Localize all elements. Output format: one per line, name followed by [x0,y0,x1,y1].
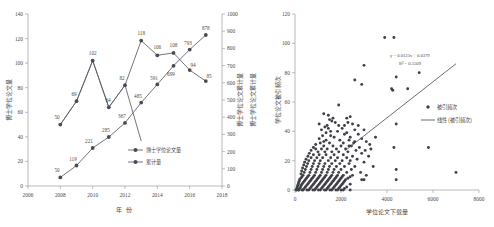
scatter-point [325,131,328,134]
scatter-point [307,159,310,162]
left-ytick-60: 60 [18,109,24,115]
scatter-point [346,121,349,124]
scatter-point [321,168,324,171]
scatter-point [341,127,344,130]
scatter-point [337,103,340,106]
left-line-chart-panel: 0 20 40 60 80 100 120 140 0 [0,0,247,227]
cumulative-label-2017: 878 [202,25,210,31]
left-xtick-2016: 2016 [184,192,195,198]
cumulative-label-2010: 221 [85,138,93,144]
scatter-point [406,87,409,90]
cumulative-label-2014: 591 [150,75,158,81]
left-ytick-20: 20 [18,158,24,164]
scatter-point [312,146,315,149]
scatter-point [300,172,303,175]
scatter-point [351,155,354,158]
scatter-point [359,171,362,174]
left-axes [28,14,222,186]
left-ytick-100: 100 [15,60,23,66]
annual-label-2015: 108 [170,42,178,48]
scatter-point [345,156,348,159]
left-ytick-0: 0 [20,183,23,189]
scatter-point [349,115,352,118]
right-ytick-80: 80 [285,70,291,76]
scatter-point [334,189,337,192]
cumulative-label-2011: 285 [102,127,110,133]
scatter-point [391,89,394,92]
cumulative-point-2015 [172,64,176,68]
scatter-point [395,178,398,181]
cumulative-point-2008 [58,176,62,180]
scatter-point [329,130,332,133]
scatter-point [327,159,330,162]
annual-series: 50 69 102 64 82 118 106 108 94 85 [54,30,212,141]
scatter-point [427,146,430,149]
scatter-point [327,168,330,171]
scatter-point [340,168,343,171]
scatter-point [345,117,348,120]
right-ytick-20: 20 [285,158,291,164]
scatter-point [330,150,333,153]
legend-marker-cumulative [134,160,138,164]
scatter-point [333,168,336,171]
right-xtick-6000: 6000 [428,196,439,202]
legend-marker-citations [426,105,429,108]
left-ytick-140: 140 [15,11,23,17]
scatter-point [326,147,329,150]
scatter-point [326,171,329,174]
scatter-point [360,152,363,155]
annual-label-2016: 94 [190,62,196,68]
scatter-point [365,140,368,143]
scatter-point [365,174,368,177]
annual-point-2014 [155,53,159,57]
scatter-point [392,36,395,39]
scatter-point [343,165,346,168]
scatter-point [321,156,324,159]
right-y-axis-ticks: 0 20 40 60 80 100 120 [282,11,295,193]
scatter-point [317,189,320,192]
left-y2tick-900: 900 [227,28,235,34]
scatter-point [322,165,325,168]
scatter-point [317,150,320,153]
scatter-point [328,165,331,168]
left-xtick-2014: 2014 [152,192,163,198]
scatter-point [303,161,306,164]
legend-marker-annual [134,148,138,152]
left-y2-axis-ticks: 0 100 200 300 400 500 600 700 800 900 [222,11,238,189]
right-ytick-120: 120 [282,11,290,17]
scatter-point [342,142,345,145]
left-y2tick-0: 0 [227,183,230,189]
annual-point-2012 [123,83,127,87]
cumulative-label-2012: 367 [118,113,126,119]
scatter-point [319,159,322,162]
left-y-axis-ticks: 0 20 40 60 80 100 120 140 [15,11,28,189]
right-xtick-8000: 8000 [474,196,485,202]
scatter-point [395,123,398,126]
scatter-point [395,76,398,79]
scatter-point [321,134,324,137]
scatter-point [332,117,335,120]
scatter-point [310,149,313,152]
scatter-point [342,153,345,156]
left-xtick-2010: 2010 [87,192,98,198]
scatter-point [330,162,333,165]
scatter-point [351,123,354,126]
scatter-point [327,127,330,130]
scatter-point [348,139,351,142]
scatter-point [297,189,300,192]
scatter-point [318,137,321,140]
left-ytick-40: 40 [18,134,24,140]
left-y2tick-300: 300 [227,131,235,137]
scatter-point [322,145,325,148]
right-ytick-100: 100 [282,40,290,46]
left-y2tick-500: 500 [227,97,235,103]
legend-label-linear-fit: 线性 (被引频次) [437,116,472,124]
scatter-point [323,189,326,192]
annual-point-2013 [139,39,143,43]
scatter-point [312,153,315,156]
annual-label-2008: 50 [54,114,60,120]
scatter-point [300,169,303,172]
left-x-axis-ticks: 2006 2008 2010 2012 2014 2016 2018 [23,186,228,198]
right-xtick-2000: 2000 [336,196,347,202]
scatter-point [343,133,346,136]
